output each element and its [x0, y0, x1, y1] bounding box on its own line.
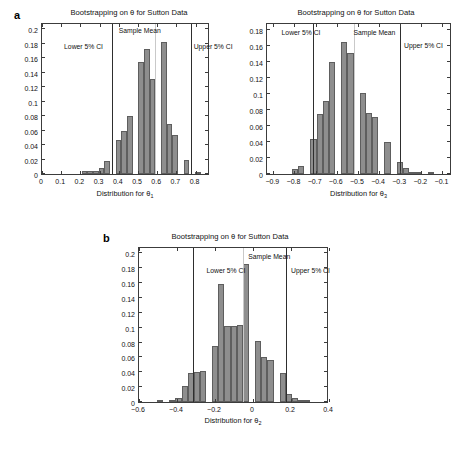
x-axis-label-text-theta1: Distribution for θ: [97, 189, 151, 198]
reference-line-sample-mean: [155, 24, 156, 174]
x-tick-label: −0.7: [308, 178, 322, 185]
x-axis-label-text-theta2: Distribution for θ: [205, 416, 259, 425]
y-axis-tick: [42, 43, 45, 44]
x-axis-tick: [316, 171, 317, 174]
y-tick-label: 0.06: [106, 355, 135, 362]
y-tick-label: 0.02: [9, 157, 38, 164]
plot-area-theta1: Lower 5% CISample MeanUpper 5% CI: [41, 23, 209, 175]
y-tick-label: 0: [234, 172, 263, 179]
y-tick-label: 0.18: [106, 266, 135, 273]
x-tick-label: −0.6: [329, 178, 343, 185]
y-axis-tick: [324, 371, 327, 372]
reference-line-lower-ci: [313, 24, 314, 174]
annotation-upper-ci: Upper 5% CI: [404, 42, 443, 49]
x-tick-label: 0: [250, 406, 254, 413]
x-axis-tick: [177, 399, 178, 402]
annotation-lower-ci: Lower 5% CI: [64, 43, 103, 50]
y-axis-tick: [267, 93, 270, 94]
y-axis-tick: [205, 86, 208, 87]
y-axis-tick: [139, 297, 142, 298]
histogram-bar: [298, 166, 304, 174]
y-tick-label: 0.18: [9, 41, 38, 48]
y-axis-tick: [139, 312, 142, 313]
y-axis-tick: [139, 282, 142, 283]
x-tick-label: −0.2: [413, 178, 427, 185]
x-axis-tick: [80, 171, 81, 174]
y-axis-tick: [139, 327, 142, 328]
x-tick-label: −0.5: [350, 178, 364, 185]
y-axis-tick: [324, 252, 327, 253]
x-tick-label: −0.4: [371, 178, 385, 185]
x-axis-tick: [358, 171, 359, 174]
annotation-sample-mean: Sample Mean: [353, 29, 395, 36]
x-axis-label-text-theta3: Distribution for θ: [330, 189, 384, 198]
x-axis-tick: [316, 24, 317, 27]
y-tick-label: 0.08: [106, 340, 135, 347]
reference-line-lower-ci: [193, 248, 194, 402]
x-axis-tick: [294, 24, 295, 27]
y-tick-label: 0.16: [106, 281, 135, 288]
y-axis-tick: [447, 173, 450, 174]
x-axis-tick: [177, 248, 178, 251]
y-tick-label: 0: [9, 172, 38, 179]
y-axis-tick: [42, 130, 45, 131]
y-axis-tick: [324, 282, 327, 283]
y-axis-tick: [139, 252, 142, 253]
histogram-bar: [200, 371, 206, 402]
x-axis-tick: [176, 171, 177, 174]
y-axis-tick: [205, 130, 208, 131]
bootstrapping-figure: a Bootstrapping on θ for Sutton Data Low…: [0, 0, 470, 451]
chart-title-theta1: Bootstrapping on θ for Sutton Data: [34, 8, 224, 17]
y-tick-label: 0.14: [106, 296, 135, 303]
y-tick-label: 0.02: [234, 156, 263, 163]
x-axis-tick: [138, 171, 139, 174]
x-axis-tick: [100, 171, 101, 174]
x-axis-tick: [421, 24, 422, 27]
x-axis-tick: [253, 248, 254, 251]
x-axis-tick: [442, 171, 443, 174]
x-axis-tick: [358, 24, 359, 27]
x-axis-tick: [379, 171, 380, 174]
x-axis-tick: [61, 171, 62, 174]
x-tick-label: 0.8: [190, 178, 200, 185]
x-axis-tick: [442, 24, 443, 27]
reference-line-upper-ci: [286, 248, 287, 402]
x-axis-tick: [421, 171, 422, 174]
x-axis-tick: [42, 24, 43, 27]
y-axis-tick: [205, 72, 208, 73]
reference-line-upper-ci: [400, 24, 401, 174]
x-axis-tick: [294, 171, 295, 174]
y-axis-tick: [324, 327, 327, 328]
plot-area-theta2: Lower 5% CISample MeanUpper 5% CI: [138, 247, 328, 403]
y-axis-tick: [42, 28, 45, 29]
y-tick-label: 0.18: [234, 28, 263, 35]
x-axis-tick: [337, 24, 338, 27]
y-tick-label: 0.2: [106, 251, 135, 258]
x-tick-label: 0.6: [151, 178, 161, 185]
x-axis-tick: [100, 24, 101, 27]
y-axis-tick: [324, 356, 327, 357]
y-tick-label: 0.08: [234, 108, 263, 115]
y-tick-label: 0.12: [106, 310, 135, 317]
x-tick-label: 0.2: [75, 178, 85, 185]
y-axis-tick: [267, 45, 270, 46]
x-tick-label: 0.4: [113, 178, 123, 185]
y-axis-tick: [139, 356, 142, 357]
x-tick-label: 0.2: [285, 406, 295, 413]
y-tick-label: 0.08: [9, 114, 38, 121]
x-axis-tick: [119, 171, 120, 174]
x-tick-label: 0.3: [94, 178, 104, 185]
histogram-bar: [428, 172, 434, 174]
x-axis-tick: [291, 399, 292, 402]
annotation-sample-mean: Sample Mean: [119, 27, 161, 34]
histogram-bar: [267, 360, 273, 402]
reference-line-sample-mean: [354, 24, 355, 174]
y-tick-label: 0.16: [9, 56, 38, 63]
panel-letter-b: b: [103, 233, 110, 244]
y-tick-label: 0.16: [234, 44, 263, 51]
y-tick-label: 0.02: [106, 385, 135, 392]
y-axis-tick: [447, 77, 450, 78]
plot-area-theta3: Lower 5% CISample MeanUpper 5% CI: [266, 23, 451, 175]
y-axis-tick: [42, 115, 45, 116]
y-axis-tick: [447, 157, 450, 158]
